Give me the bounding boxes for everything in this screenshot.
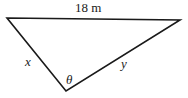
- right-side-label: y: [119, 56, 127, 71]
- triangle-diagram: 18 m x y θ: [0, 0, 188, 98]
- top-side-label: 18 m: [75, 0, 101, 15]
- left-side-label: x: [24, 54, 31, 69]
- angle-label: θ: [66, 72, 73, 87]
- triangle: [7, 18, 180, 91]
